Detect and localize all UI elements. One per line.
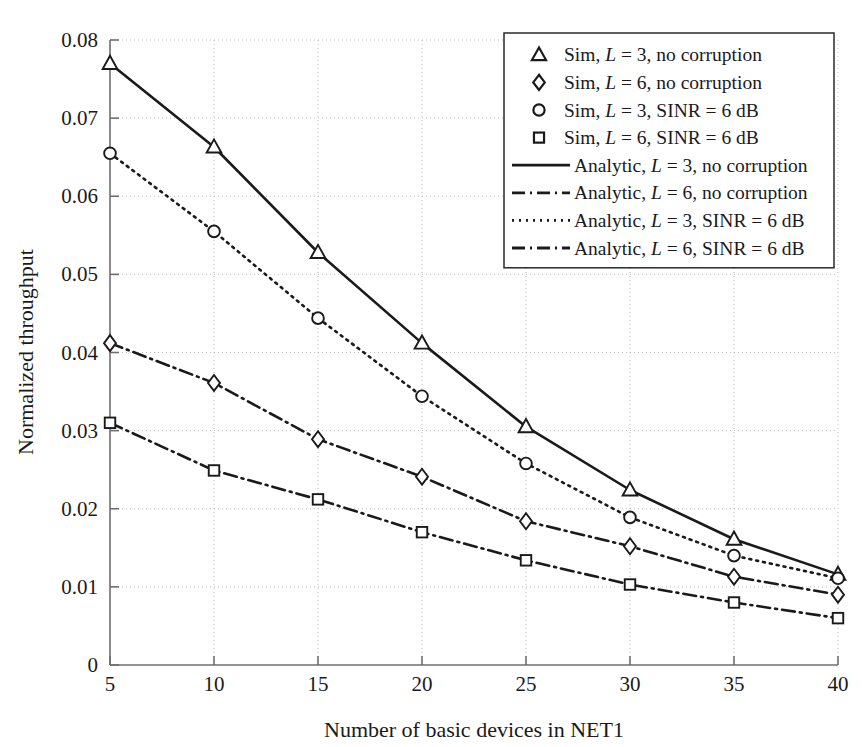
legend-label: Analytic, L = 6, SINR = 6 dB [574,238,805,259]
legend-item[interactable]: Sim, L = 3, SINR = 6 dB [533,100,758,121]
y-tick-label: 0.04 [61,341,98,365]
square-marker [521,555,532,566]
throughput-line-chart: 00.010.020.030.040.050.060.070.08 510152… [0,0,863,747]
x-tick-label: 15 [308,672,329,696]
x-tick-label: 35 [724,672,745,696]
x-tick-label: 20 [412,672,433,696]
circle-marker [533,104,544,115]
circle-marker [728,550,740,562]
legend-label: Sim, L = 3, SINR = 6 dB [564,100,759,121]
y-tick-label: 0.05 [61,262,98,286]
legend-label: Sim, L = 3, no corruption [564,44,762,65]
square-marker [729,597,740,608]
legend-label: Analytic, L = 3, SINR = 6 dB [574,210,805,231]
x-tick-label: 5 [105,672,116,696]
circle-marker [832,572,844,584]
legend-label: Analytic, L = 3, no corruption [574,155,808,176]
y-tick-label: 0.08 [61,28,98,52]
y-tick-label: 0.01 [61,575,98,599]
x-tick-label: 40 [828,672,849,696]
square-marker [313,494,324,505]
x-tick-label: 30 [620,672,641,696]
square-marker [105,418,116,429]
legend-label: Analytic, L = 6, no corruption [574,182,808,203]
circle-marker [208,226,220,238]
y-tick-label: 0.03 [61,419,98,443]
circle-marker [312,312,324,324]
y-tick-label: 0.02 [61,497,98,521]
circle-marker [104,147,116,159]
square-marker [209,465,220,476]
square-marker [417,527,428,538]
chart-figure: 00.010.020.030.040.050.060.070.08 510152… [0,0,863,747]
legend: Sim, L = 3, no corruptionSim, L = 6, no … [504,33,834,268]
circle-marker [520,458,532,470]
square-marker [833,613,844,624]
x-axis-title: Number of basic devices in NET1 [324,717,624,742]
y-axis-tick-labels: 00.010.020.030.040.050.060.070.08 [61,28,98,677]
x-tick-label: 10 [204,672,225,696]
y-tick-label: 0.07 [61,106,98,130]
legend-item[interactable]: Sim, L = 6, no corruption [533,72,762,93]
square-marker [534,133,544,143]
legend-label: Sim, L = 6, no corruption [564,72,762,93]
legend-border [504,33,834,268]
x-tick-label: 25 [516,672,537,696]
legend-label: Sim, L = 6, SINR = 6 dB [564,127,759,148]
y-tick-label: 0 [88,653,99,677]
y-tick-label: 0.06 [61,184,98,208]
circle-marker [416,390,428,402]
y-axis-title: Normalized throughput [13,249,38,455]
legend-item[interactable]: Sim, L = 6, SINR = 6 dB [534,127,759,148]
legend-item[interactable]: Sim, L = 3, no corruption [532,44,762,65]
circle-marker [624,511,636,523]
square-marker [625,579,636,590]
